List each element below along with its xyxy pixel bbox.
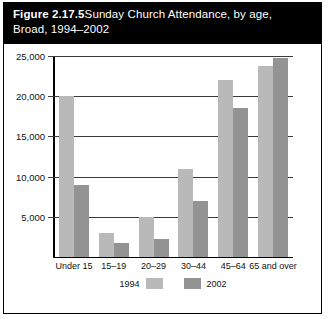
y-axis-label: 10,000 bbox=[16, 171, 45, 182]
y-axis-tick bbox=[48, 177, 53, 178]
y-axis-label: 15,000 bbox=[16, 131, 45, 142]
bar-2002 bbox=[193, 201, 208, 257]
bar-1994 bbox=[139, 217, 154, 257]
bar-group: 20–29 bbox=[134, 56, 174, 257]
figure-title: Figure 2.17.5Sunday Church Attendance, b… bbox=[13, 7, 312, 36]
bar-1994 bbox=[99, 233, 114, 257]
x-axis-label: 20–29 bbox=[141, 261, 166, 271]
figure-number: Figure 2.17.5 bbox=[13, 8, 85, 20]
y-axis-tick bbox=[48, 136, 53, 137]
plot-area: 5,00010,00015,00020,00025,000 Under 1515… bbox=[53, 56, 293, 257]
chart-legend: 1994 2002 bbox=[53, 278, 293, 289]
bar-group: Under 15 bbox=[54, 56, 94, 257]
bar-2002 bbox=[154, 239, 169, 257]
x-axis-label: 15–19 bbox=[101, 261, 126, 271]
bar-2002 bbox=[273, 58, 288, 257]
x-axis-label: 65 and over bbox=[249, 261, 297, 271]
bar-2002 bbox=[114, 243, 129, 257]
legend-swatch-2002 bbox=[184, 278, 201, 289]
bar-groups: Under 1515–1920–2930–4445–6465 and over bbox=[54, 56, 293, 257]
y-axis-label: 5,000 bbox=[21, 211, 45, 222]
bar-2002 bbox=[233, 108, 248, 257]
bar-1994 bbox=[258, 66, 273, 257]
y-axis-tick bbox=[48, 217, 53, 218]
x-axis-label: 45–64 bbox=[221, 261, 246, 271]
x-axis-label: 30–44 bbox=[181, 261, 206, 271]
y-axis-tick bbox=[48, 96, 53, 97]
figure-title-banner: Figure 2.17.5Sunday Church Attendance, b… bbox=[3, 2, 322, 44]
y-axis-tick bbox=[48, 56, 53, 57]
legend-label-1994: 1994 bbox=[119, 279, 139, 289]
bar-group: 15–19 bbox=[94, 56, 134, 257]
bar-group: 65 and over bbox=[253, 56, 293, 257]
y-axis-label: 20,000 bbox=[16, 91, 45, 102]
legend-item-1994: 1994 bbox=[119, 278, 162, 289]
bar-2002 bbox=[74, 185, 89, 257]
chart-panel: 5,00010,00015,00020,00025,000 Under 1515… bbox=[7, 48, 318, 310]
bar-1994 bbox=[59, 96, 74, 257]
legend-label-2002: 2002 bbox=[207, 279, 227, 289]
bar-group: 30–44 bbox=[173, 56, 213, 257]
legend-item-2002: 2002 bbox=[184, 278, 227, 289]
x-axis-label: Under 15 bbox=[55, 261, 92, 271]
bar-1994 bbox=[178, 169, 193, 257]
bar-group: 45–64 bbox=[213, 56, 253, 257]
legend-swatch-1994 bbox=[146, 278, 163, 289]
y-axis-label: 25,000 bbox=[16, 51, 45, 62]
figure-container: Figure 2.17.5Sunday Church Attendance, b… bbox=[0, 0, 328, 319]
bar-1994 bbox=[218, 80, 233, 257]
